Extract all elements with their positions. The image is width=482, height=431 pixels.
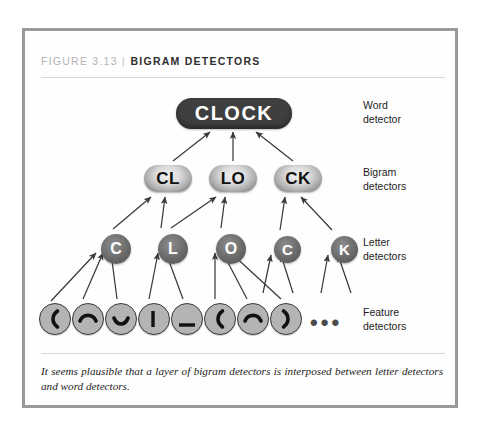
arc-up-feature-icon xyxy=(238,304,268,334)
caption-divider xyxy=(41,353,445,354)
vertical-bar-feature-icon xyxy=(139,304,169,334)
letter-detector-node-c2[interactable]: C xyxy=(274,236,301,263)
figure-inner: FIGURE 3.13|BIGRAM DETECTORS xyxy=(25,31,455,405)
letter-detector-node-o[interactable]: O xyxy=(216,234,246,264)
feature-detector-node-6[interactable] xyxy=(204,303,236,335)
letter-node-label: C xyxy=(282,241,293,258)
arc-down-feature-icon xyxy=(106,304,136,334)
header-divider xyxy=(41,77,445,78)
word-detector-node-clock[interactable]: CLOCK xyxy=(176,98,292,129)
feature-detector-node-4[interactable] xyxy=(138,303,170,335)
figure-page: FIGURE 3.13|BIGRAM DETECTORS xyxy=(0,0,482,431)
feature-detector-node-5[interactable] xyxy=(171,303,203,335)
feature-detector-node-1[interactable] xyxy=(39,303,71,335)
layer-label-letter: Letter detectors xyxy=(363,236,406,263)
left-paren-feature-icon xyxy=(40,304,70,334)
diagram-connectors xyxy=(25,31,461,411)
word-node-label: CLOCK xyxy=(195,102,274,125)
figure-number: FIGURE 3.13 xyxy=(41,55,118,67)
letter-node-label: K xyxy=(339,241,350,258)
figure-separator: | xyxy=(118,55,131,67)
feature-detector-node-7[interactable] xyxy=(237,303,269,335)
letter-node-label: O xyxy=(225,240,237,258)
bigram-detector-node-lo[interactable]: LO xyxy=(209,165,257,192)
figure-title: BIGRAM DETECTORS xyxy=(131,55,261,67)
letter-detector-node-c1[interactable]: C xyxy=(101,234,131,264)
feature-detector-node-2[interactable] xyxy=(72,303,104,335)
letter-node-label: C xyxy=(110,240,122,258)
feature-layer-ellipsis: ••• xyxy=(310,312,342,334)
bigram-node-label: CL xyxy=(156,169,180,189)
layer-label-feature: Feature detectors xyxy=(363,306,406,333)
letter-detector-node-k[interactable]: K xyxy=(331,236,358,263)
bigram-node-label: CK xyxy=(285,169,311,189)
underscore-feature-icon xyxy=(172,304,202,334)
feature-detector-node-8[interactable] xyxy=(270,303,302,335)
bigram-node-label: LO xyxy=(221,169,246,189)
figure-header: FIGURE 3.13|BIGRAM DETECTORS xyxy=(41,51,445,73)
figure-frame: FIGURE 3.13|BIGRAM DETECTORS xyxy=(22,28,458,408)
letter-detector-node-l[interactable]: L xyxy=(158,234,188,264)
left-paren-feature-icon xyxy=(205,304,235,334)
layer-label-word: Word detector xyxy=(363,99,401,126)
letter-node-label: L xyxy=(168,240,178,258)
feature-detector-node-3[interactable] xyxy=(105,303,137,335)
layer-label-bigram: Bigram detectors xyxy=(363,166,406,193)
arc-up-feature-icon xyxy=(73,304,103,334)
figure-caption: It seems plausible that a layer of bigra… xyxy=(41,364,443,394)
right-paren-feature-icon xyxy=(271,304,301,334)
bigram-detector-node-ck[interactable]: CK xyxy=(274,165,322,192)
bigram-detector-node-cl[interactable]: CL xyxy=(144,165,192,192)
